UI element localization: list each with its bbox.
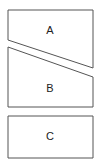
shape-c-label: C (46, 130, 54, 142)
shape-a-label: A (46, 24, 54, 36)
shape-c: C (8, 116, 93, 158)
diagram-canvas: A B C (0, 0, 101, 165)
shape-b-label: B (46, 82, 53, 94)
